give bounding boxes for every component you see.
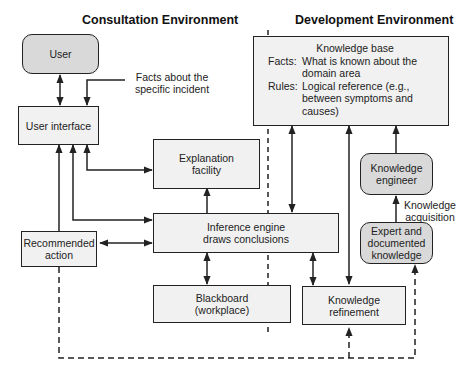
user-interface-label: User interface [26, 120, 91, 132]
expert-knowledge-box: Expert and documented knowledge [360, 222, 433, 264]
inference-line1: Inference engine [207, 221, 285, 233]
consultation-heading: Consultation Environment [82, 13, 238, 27]
explanation-line1: Explanation [179, 152, 234, 164]
blackboard-line1: Blackboard [196, 292, 249, 304]
inference-line2: draws conclusions [203, 233, 289, 245]
development-heading: Development Environment [295, 13, 453, 27]
knowledge-refinement-box: Knowledge refinement [302, 286, 406, 325]
knowledge-acquisition-annotation: Knowledge acquisition [404, 199, 456, 223]
user-interface-box: User interface [18, 106, 99, 145]
kb-rules-value: Logical reference (e.g., between symptom… [302, 80, 448, 118]
refinement-line1: Knowledge [328, 294, 380, 306]
explanation-facility-box: Explanation facility [153, 139, 260, 189]
facts-incident-annotation: Facts about the specific incident [135, 71, 209, 95]
ui-inference-arrow [73, 145, 152, 220]
ui-explanation-arrow [87, 145, 152, 170]
explanation-line2: facility [192, 164, 221, 176]
kb-rules-row: Rules: Logical reference (e.g., between … [268, 80, 448, 118]
facts-incident-arrow [87, 80, 125, 105]
kb-rules-key: Rules: [268, 80, 302, 118]
knowledge-base-box: Knowledge base Facts: What is known abou… [253, 36, 449, 126]
kb-facts-row: Facts: What is known about the domain ar… [268, 55, 448, 80]
blackboard-line2: (workplace) [195, 304, 249, 316]
knowledge-base-title: Knowledge base [254, 42, 448, 55]
inference-engine-box: Inference engine draws conclusions [153, 213, 339, 253]
recommended-action-box: Recommended action [21, 231, 97, 267]
recommended-line1: Recommended [23, 237, 94, 249]
acquisition-line1: Knowledge [404, 199, 456, 211]
expert-line3: knowledge [371, 249, 421, 261]
kb-facts-value: What is known about the domain area [302, 55, 448, 80]
recommended-line2: action [45, 249, 73, 261]
kb-facts-key: Facts: [268, 55, 302, 80]
facts-incident-line1: Facts about the [135, 71, 209, 83]
user-box: User [22, 34, 99, 74]
engineer-line1: Knowledge [371, 162, 423, 174]
expert-line1: Expert and [371, 225, 422, 237]
expert-system-diagram: Consultation Environment Development Env… [0, 0, 462, 369]
expert-line2: documented [368, 237, 426, 249]
refinement-line2: refinement [329, 306, 379, 318]
user-label: User [49, 48, 71, 60]
knowledge-engineer-box: Knowledge engineer [360, 153, 433, 195]
engineer-line2: engineer [376, 174, 417, 186]
facts-incident-line2: specific incident [135, 83, 209, 95]
blackboard-box: Blackboard (workplace) [153, 285, 291, 323]
